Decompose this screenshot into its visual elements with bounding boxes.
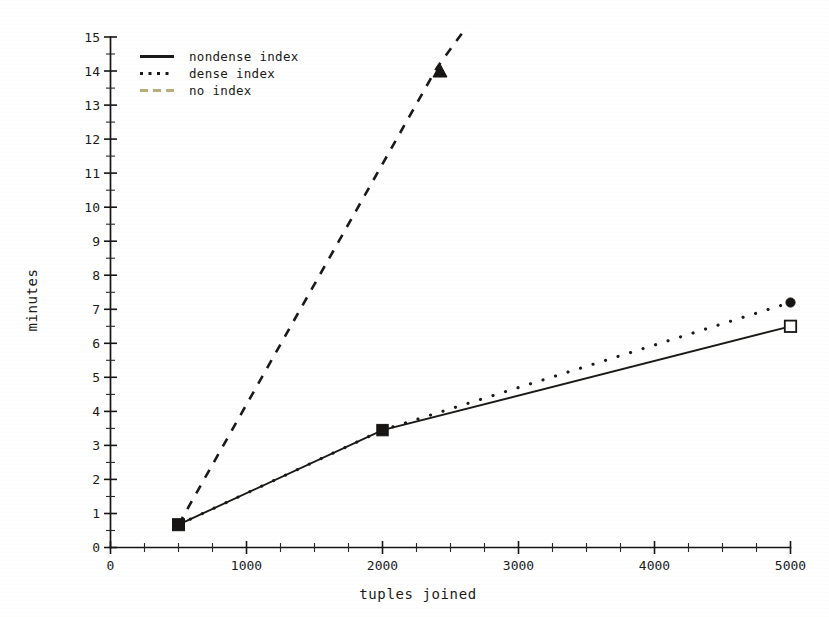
y-tick-label: 9 (92, 234, 100, 249)
series-no-index-marker (433, 64, 447, 77)
line-chart-canvas: 0 1 2 3 4 5 6 7 8 9 10 11 12 13 14 15 (0, 0, 829, 617)
series-dense-index-line (179, 303, 791, 525)
y-tick-label: 12 (84, 132, 100, 147)
x-tick-label: 0 (107, 558, 115, 573)
series-dense-index (179, 298, 796, 525)
y-tick-label: 11 (84, 166, 100, 181)
x-axis-tick-labels: 0 1000 2000 3000 4000 5000 (107, 558, 807, 573)
y-tick-label: 10 (84, 200, 100, 215)
y-tick-label: 5 (92, 370, 100, 385)
series-nondense-index-line (179, 326, 791, 524)
chart-legend: nondense index dense index no index (140, 49, 299, 98)
legend-label-nondense-index: nondense index (189, 49, 299, 64)
y-tick-label: 4 (92, 404, 100, 419)
x-axis-ticks (111, 541, 791, 554)
y-tick-label: 2 (92, 472, 100, 487)
y-tick-label: 13 (84, 98, 100, 113)
y-tick-label: 8 (92, 268, 100, 283)
x-axis-title: tuples joined (359, 586, 476, 602)
x-tick-label: 2000 (367, 558, 398, 573)
y-tick-label: 14 (84, 64, 100, 79)
series-nondense-index-marker (173, 519, 185, 531)
y-tick-label: 15 (84, 30, 100, 45)
y-tick-label: 6 (92, 336, 100, 351)
x-tick-label: 3000 (503, 558, 534, 573)
y-axis-tick-labels: 0 1 2 3 4 5 6 7 8 9 10 11 12 13 14 15 (84, 30, 100, 555)
series-no-index-line (179, 27, 468, 525)
series-nondense-index-marker (785, 321, 796, 332)
y-axis-title: minutes (24, 268, 40, 331)
x-tick-label: 1000 (231, 558, 262, 573)
legend-label-dense-index: dense index (189, 66, 275, 81)
axes-group (111, 37, 791, 548)
x-tick-label: 5000 (775, 558, 806, 573)
legend-label-no-index: no index (189, 83, 252, 98)
y-tick-label: 3 (92, 438, 100, 453)
chart-figure: 0 1 2 3 4 5 6 7 8 9 10 11 12 13 14 15 (0, 0, 829, 617)
y-tick-label: 0 (92, 540, 100, 555)
series-nondense-index (173, 321, 797, 531)
series-dense-index-marker (786, 298, 795, 307)
y-tick-label: 1 (92, 506, 100, 521)
x-tick-label: 4000 (639, 558, 670, 573)
y-tick-label: 7 (92, 302, 100, 317)
series-no-index (179, 27, 468, 525)
series-nondense-index-marker (377, 424, 388, 435)
